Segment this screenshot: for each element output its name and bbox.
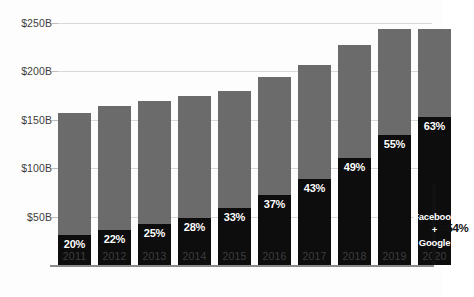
x-axis-line xyxy=(50,265,434,267)
bar-2018[interactable] xyxy=(338,45,371,265)
x-tick-label-2018: 2018 xyxy=(335,250,375,262)
bar-segment-other xyxy=(338,45,371,157)
data-label-2015: 33% xyxy=(218,211,251,223)
bar-2016[interactable] xyxy=(258,77,291,265)
x-tick-label-2014: 2014 xyxy=(175,250,215,262)
y-tick-label: $250B xyxy=(4,17,52,29)
data-label-2011: 20% xyxy=(58,238,91,250)
x-tick-label-2019: 2019 xyxy=(375,250,415,262)
data-label-2019: 55% xyxy=(378,138,411,150)
plot-area: 20%22%25%28%33%37%43%49%55%63% xyxy=(58,23,432,265)
bar-segment-other xyxy=(378,29,411,135)
data-label-2017: 43% xyxy=(298,182,331,194)
y-tick-mark xyxy=(51,71,58,72)
bar-2015[interactable] xyxy=(218,91,251,265)
y-tick-label: $100B xyxy=(4,162,52,174)
bar-segment-other xyxy=(258,77,291,195)
bar-2014[interactable] xyxy=(178,96,211,265)
x-tick-label-2016: 2016 xyxy=(255,250,295,262)
bar-2013[interactable] xyxy=(138,101,171,265)
y-tick-mark xyxy=(51,168,58,169)
data-label-2012: 22% xyxy=(98,233,131,245)
x-tick-label-2012: 2012 xyxy=(95,250,135,262)
gridline-200B xyxy=(58,71,432,72)
y-tick-mark xyxy=(51,217,58,218)
x-tick-label-2011: 2011 xyxy=(55,250,95,262)
x-tick-label-2015: 2015 xyxy=(215,250,255,262)
bar-segment-other xyxy=(98,106,131,230)
y-tick-mark xyxy=(51,120,58,121)
bar-segment-other xyxy=(138,101,171,224)
y-tick-mark xyxy=(51,23,58,24)
y-tick-label: $50B xyxy=(4,211,52,223)
x-tick-label-2013: 2013 xyxy=(135,250,175,262)
y-tick-label: $150B xyxy=(4,114,52,126)
gridline-250B xyxy=(58,23,432,24)
y-tick-label: $200B xyxy=(4,65,52,77)
bar-segment-other xyxy=(58,113,91,235)
x-tick-label-2017: 2017 xyxy=(295,250,335,262)
data-label-2018: 49% xyxy=(338,161,371,173)
bar-segment-other xyxy=(218,91,251,208)
bar-2017[interactable] xyxy=(298,65,331,265)
data-label-2014: 28% xyxy=(178,221,211,233)
data-label-2020: 63% xyxy=(418,120,451,132)
bar-segment-other xyxy=(298,65,331,179)
annotation-value: =54% xyxy=(440,222,469,234)
annotation-line-3: Google xyxy=(395,237,474,249)
bar-segment-duopoly xyxy=(338,158,371,265)
data-label-2013: 25% xyxy=(138,227,171,239)
data-label-2016: 37% xyxy=(258,198,291,210)
bar-segment-other xyxy=(178,96,211,218)
bar-segment-other xyxy=(418,29,451,117)
